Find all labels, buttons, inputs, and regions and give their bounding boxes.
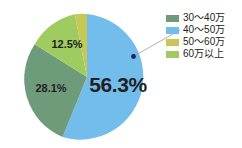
slice-label-30-40: 28.1% <box>35 82 66 94</box>
legend-item-50-60[interactable]: 50〜60万 <box>166 36 242 48</box>
legend-item-30-40[interactable]: 30〜40万 <box>166 12 242 24</box>
pie-chart-figure: 56.3% 28.1% 12.5% 30〜40万 40〜50万 50〜60万 6… <box>0 0 242 148</box>
legend-label: 40〜50万 <box>183 24 225 36</box>
callout-dot <box>131 54 136 59</box>
legend-swatch-icon <box>166 51 179 58</box>
slice-label-60-over: 12.5% <box>51 38 82 50</box>
legend-swatch-icon <box>166 39 179 46</box>
legend-label: 60万以上 <box>183 48 224 60</box>
legend-swatch-icon <box>166 15 179 22</box>
slice-label-40-50: 56.3% <box>89 73 147 96</box>
legend-swatch-icon <box>166 27 179 34</box>
legend-item-60-over[interactable]: 60万以上 <box>166 48 242 60</box>
legend-label: 50〜60万 <box>183 36 225 48</box>
legend-label: 30〜40万 <box>183 12 225 24</box>
legend-item-40-50[interactable]: 40〜50万 <box>166 24 242 36</box>
chart-legend: 30〜40万 40〜50万 50〜60万 60万以上 <box>166 12 242 60</box>
